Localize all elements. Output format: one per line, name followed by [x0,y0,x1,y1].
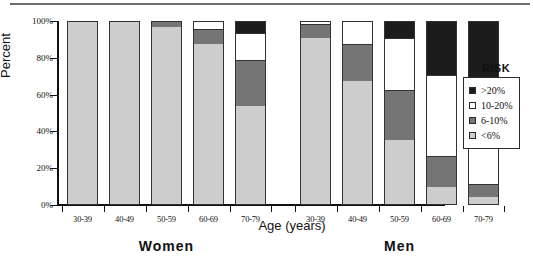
bar-segment-men-70-79-6-10% [469,184,498,197]
legend: RISK >20%10-20%6-10%<6% [463,62,527,149]
legend-item-label: <6% [481,130,500,141]
bar-women-70-79[interactable] [235,21,266,205]
x-tick-mark [230,206,231,212]
legend-item[interactable]: >20% [469,83,513,98]
bar-segment-women-70-79-10-20% [236,33,265,61]
bar-segment-women-70-79->20% [236,21,265,33]
legend-swatch-icon [469,102,476,109]
x-tick-mark [188,206,189,212]
legend-item[interactable]: <6% [469,128,513,143]
x-axis-title: Age (years) [258,218,325,233]
legend-swatch-icon [469,117,476,124]
bar-segment-women-70-79-6-10% [236,60,265,106]
x-tick-mark [271,206,272,212]
bar-women-60-69[interactable] [193,21,224,205]
y-tick-label: 100% [32,16,53,26]
bar-segment-men-40-49-<6% [343,81,372,204]
y-tick-label: 60% [37,90,54,100]
chart-figure: Percent 100%80%60%40%20%0% 30-3940-4950-… [0,0,533,269]
legend-item[interactable]: 6-10% [469,113,513,128]
legend-title: RISK [465,62,527,74]
bar-segment-men-70-79-<6% [469,197,498,204]
bar-men-50-59[interactable] [384,21,415,205]
bar-segment-men-30-39-6-10% [301,24,330,39]
bar-segment-women-60-69-<6% [194,44,223,204]
bar-segment-men-50-59-<6% [385,140,414,204]
x-tick-mark [337,206,338,212]
x-tick-label-women-30-39: 30-39 [73,214,92,224]
bar-women-50-59[interactable] [151,21,182,205]
bar-segment-men-60-69-6-10% [427,156,456,187]
bar-segment-men-30-39-10-20% [301,21,330,24]
bar-segment-men-50-59->20% [385,21,414,38]
bar-segment-men-30-39-<6% [301,38,330,204]
x-tick-label-men-50-59: 50-59 [390,214,409,224]
bar-segment-men-40-49-6-10% [343,44,372,81]
y-axis-title: Percent [0,33,13,78]
legend-swatch-icon [469,87,476,94]
y-tick-label: 80% [37,53,54,63]
x-tick-mark [104,206,105,212]
x-tick-mark [62,206,63,212]
bar-women-30-39[interactable] [67,21,98,205]
bar-segment-women-40-49-<6% [110,21,139,204]
x-tick-mark [463,206,464,212]
bar-segment-women-70-79-<6% [236,106,265,204]
x-tick-label-men-40-49: 40-49 [348,214,367,224]
legend-swatch-icon [469,132,476,139]
bar-segment-women-60-69-10-20% [194,21,223,29]
y-tick-label: 0% [41,200,53,210]
bar-segment-men-60-69-10-20% [427,75,456,156]
group-label-women: Women [139,238,194,254]
bar-women-40-49[interactable] [109,21,140,205]
bar-segment-women-60-69-6-10% [194,29,223,44]
x-tick-label-women-60-69: 60-69 [199,214,218,224]
x-tick-mark [421,206,422,212]
x-tick-mark [379,206,380,212]
bar-men-40-49[interactable] [342,21,373,205]
y-tick-label: 40% [37,126,54,136]
legend-box: >20%10-20%6-10%<6% [463,77,520,149]
bar-men-30-39[interactable] [300,21,331,205]
bar-segment-men-60-69->20% [427,21,456,75]
bar-segment-women-30-39-<6% [68,21,97,204]
plot-area: 100%80%60%40%20%0% 30-3940-4950-5960-697… [57,21,443,205]
y-tick-label: 20% [37,163,54,173]
bar-segment-men-50-59-6-10% [385,90,414,140]
bar-segment-women-50-59-<6% [152,27,181,204]
legend-item[interactable]: 10-20% [469,98,513,113]
legend-item-label: 10-20% [481,100,513,111]
bar-segment-women-50-59-6-10% [152,21,181,27]
x-tick-label-women-50-59: 50-59 [157,214,176,224]
x-tick-label-women-40-49: 40-49 [115,214,134,224]
x-tick-label-women-70-79: 70-79 [241,214,260,224]
bar-segment-men-60-69-<6% [427,187,456,204]
legend-item-label: 6-10% [481,115,508,126]
group-label-men: Men [384,238,415,254]
x-tick-label-men-70-79: 70-79 [474,214,493,224]
x-tick-mark [295,206,296,212]
x-tick-mark [504,206,505,212]
bar-men-60-69[interactable] [426,21,457,205]
top-divider-rule [10,3,530,5]
x-tick-label-men-60-69: 60-69 [432,214,451,224]
bar-segment-men-40-49-10-20% [343,21,372,44]
bar-segment-men-50-59-10-20% [385,38,414,90]
x-tick-mark [146,206,147,212]
legend-item-label: >20% [481,85,505,96]
